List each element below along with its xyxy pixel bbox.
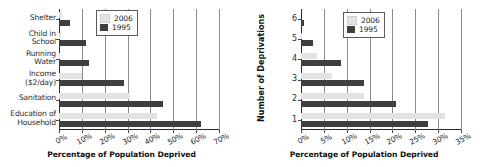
y-category-label: 2 xyxy=(292,94,297,103)
right-y-axis-title: Number of Deprivations xyxy=(257,14,266,122)
legend-swatch-2006 xyxy=(100,14,110,23)
y-category-label: 1 xyxy=(292,115,297,124)
y-category-label: Education of Household xyxy=(10,110,56,127)
legend-swatch-1995 xyxy=(347,26,355,33)
left-legend: 2006 1995 xyxy=(96,10,138,36)
right-legend: 2006 1995 xyxy=(343,12,385,38)
left-chart: 0%10%20%30%40%50%60%70% ShelterChild in … xyxy=(0,0,243,167)
legend-swatch-1995 xyxy=(100,24,108,31)
y-category-label: Shelter xyxy=(30,14,56,23)
y-category-label: 3 xyxy=(292,74,297,83)
legend-label-2006: 2006 xyxy=(114,14,133,23)
right-x-axis-title: Percentage of Population Deprived xyxy=(243,150,485,159)
legend-entry-2006: 2006 xyxy=(100,14,133,23)
legend-entry-1995: 1995 xyxy=(100,23,133,32)
y-category-label: Income ($2/day) xyxy=(25,70,56,87)
y-category-label: 6 xyxy=(292,14,297,23)
right-chart: 0%5%10%15%20%25%30%35% 654321 Number of … xyxy=(243,0,485,167)
y-category-label: Child in School xyxy=(29,30,56,47)
legend-label-1995: 1995 xyxy=(112,23,131,32)
y-category-label: Running Water xyxy=(26,50,56,67)
y-category-label: Sanitation xyxy=(19,94,56,103)
legend-swatch-2006 xyxy=(347,16,357,25)
y-category-label: 5 xyxy=(292,34,297,43)
dual-bar-chart-figure: 0%10%20%30%40%50%60%70% ShelterChild in … xyxy=(0,0,485,167)
y-category-label: 4 xyxy=(292,54,297,63)
left-x-axis-title: Percentage of Population Deprived xyxy=(0,150,243,159)
legend-entry-1995: 1995 xyxy=(347,25,380,34)
legend-label-2006: 2006 xyxy=(361,16,380,25)
legend-entry-2006: 2006 xyxy=(347,16,380,25)
legend-label-1995: 1995 xyxy=(359,25,378,34)
